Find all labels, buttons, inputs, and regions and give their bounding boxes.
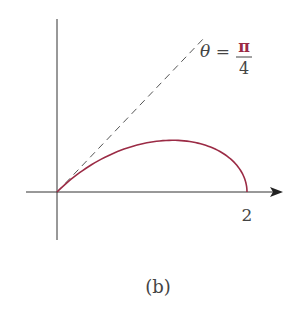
pi-denominator: 4 <box>239 59 249 78</box>
figure-caption: (b) <box>145 276 171 297</box>
theta-pi-over-4-line <box>57 37 205 192</box>
pi-numerator: π <box>238 37 250 56</box>
tick-label-2: 2 <box>242 205 253 225</box>
theta-label: θ = <box>200 41 230 61</box>
polar-curve <box>57 140 247 192</box>
polar-figure: θ = π 4 2 (b) <box>0 0 304 316</box>
